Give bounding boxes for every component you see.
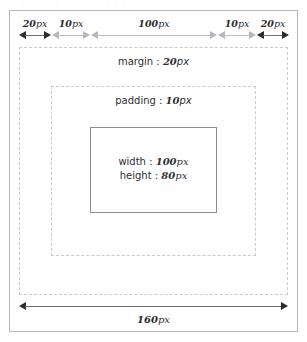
- margin-separator: :: [153, 56, 163, 67]
- ruler-segment-padding-right: 10px: [218, 31, 256, 40]
- ruler-value-content-width: 100: [138, 18, 158, 29]
- content-box: width : 100px height : 80px: [90, 127, 217, 213]
- padding-unit: px: [180, 95, 192, 106]
- arrow-head-right-icon: [249, 31, 256, 39]
- height-separator: :: [152, 170, 162, 181]
- box-model-diagram: · · · · · · · · · · · · · · · · 20px 10p…: [0, 0, 307, 342]
- ruler-bar: [263, 35, 283, 36]
- ruler-segment-padding-left: 10px: [52, 31, 90, 40]
- content-height-line: height : 80px: [91, 169, 216, 183]
- width-keyword: width: [118, 156, 146, 167]
- ruler-unit-padding-left: px: [72, 18, 83, 29]
- ruler-label-margin-right: 20px: [257, 18, 289, 29]
- margin-keyword: margin: [118, 56, 153, 67]
- content-width-line: width : 100px: [91, 155, 216, 169]
- top-measurement-ruler: 20px 10px 100px 10px 20px: [0, 14, 307, 40]
- arrow-head-right-icon: [282, 31, 289, 39]
- height-value: 80: [161, 170, 175, 181]
- width-value: 100: [156, 156, 177, 167]
- ruler-unit-content-width: px: [158, 18, 169, 29]
- ruler-label-padding-left: 10px: [52, 18, 90, 29]
- width-separator: :: [146, 156, 156, 167]
- ruler-segment-margin-left: 20px: [19, 31, 51, 40]
- height-keyword: height: [120, 170, 152, 181]
- margin-box-label: margin : 20px: [20, 56, 287, 67]
- padding-box: padding : 10px width : 100px height : 80…: [51, 86, 256, 256]
- ruler-bar: [25, 306, 282, 307]
- arrow-head-right-icon: [44, 31, 51, 39]
- padding-keyword: padding: [115, 95, 156, 106]
- bottom-measurement-ruler: 160px: [0, 300, 307, 330]
- padding-separator: :: [156, 95, 166, 106]
- ruler-value-padding-left: 10: [59, 18, 72, 29]
- width-unit: px: [177, 156, 189, 167]
- ruler-bar: [97, 35, 211, 36]
- margin-unit: px: [177, 56, 189, 67]
- ruler-bar: [224, 35, 250, 36]
- ruler-segment-margin-right: 20px: [257, 31, 289, 40]
- height-unit: px: [175, 170, 187, 181]
- padding-box-label: padding : 10px: [52, 95, 255, 106]
- content-box-labels: width : 100px height : 80px: [91, 155, 216, 183]
- arrow-head-right-icon: [281, 302, 288, 310]
- clipped-header-text: · · · · · · · · · · · · · · · ·: [0, 0, 307, 9]
- arrow-head-right-icon: [83, 31, 90, 39]
- ruler-bar: [25, 35, 45, 36]
- margin-box: margin : 20px padding : 10px width : 100…: [19, 47, 288, 295]
- ruler-label-padding-right: 10px: [218, 18, 256, 29]
- margin-value: 20: [163, 56, 177, 67]
- ruler-label-content-width: 100px: [91, 18, 217, 29]
- ruler-label-margin-left: 20px: [19, 18, 51, 29]
- ruler-unit-margin-right: px: [274, 18, 285, 29]
- total-width-unit: px: [158, 314, 170, 325]
- ruler-unit-padding-right: px: [238, 18, 249, 29]
- ruler-label-total-width: 160px: [0, 314, 307, 325]
- ruler-value-margin-right: 20: [261, 18, 274, 29]
- ruler-value-padding-right: 10: [225, 18, 238, 29]
- ruler-segment-content-width: 100px: [91, 31, 217, 40]
- padding-value: 10: [166, 95, 180, 106]
- arrow-head-right-icon: [210, 31, 217, 39]
- total-width-value: 160: [137, 314, 158, 325]
- ruler-segment-total-width: [19, 302, 288, 311]
- ruler-value-margin-left: 20: [23, 18, 36, 29]
- ruler-unit-margin-left: px: [36, 18, 47, 29]
- ruler-bar: [58, 35, 84, 36]
